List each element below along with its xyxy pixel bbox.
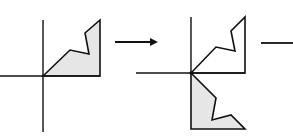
reflected-shape <box>191 73 245 129</box>
origin-point <box>189 71 192 74</box>
diagram-canvas <box>0 0 293 136</box>
original-outline <box>191 17 245 73</box>
original-shape <box>43 20 100 76</box>
panel-original <box>0 20 100 132</box>
arrow-icon <box>115 38 158 46</box>
panel-reflected <box>136 17 245 129</box>
